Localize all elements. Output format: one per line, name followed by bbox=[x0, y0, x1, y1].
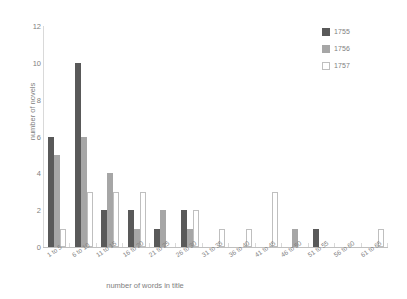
bar-group bbox=[203, 26, 229, 247]
bar-group bbox=[150, 26, 176, 247]
y-tick-label: 0 bbox=[37, 243, 41, 252]
x-tick-label: 41 to 45 bbox=[256, 250, 282, 282]
bar-group bbox=[176, 26, 202, 247]
bar-1757-6-to-10 bbox=[87, 192, 93, 247]
y-tick-label: 12 bbox=[33, 22, 41, 31]
bar-group bbox=[97, 26, 123, 247]
bar-group bbox=[282, 26, 308, 247]
x-tick-label: 11 to 15 bbox=[97, 250, 123, 282]
bar-1757-1-to-5 bbox=[60, 229, 66, 247]
y-tick-label: 4 bbox=[37, 169, 41, 178]
x-axis-ticks: 1 to 56 to 1011 to 1516 to 2021 to 2526 … bbox=[44, 250, 388, 282]
y-tick-label: 8 bbox=[37, 95, 41, 104]
x-tick-label: 6 to 10 bbox=[70, 250, 96, 282]
y-tick-label: 2 bbox=[37, 206, 41, 215]
bar-group bbox=[256, 26, 282, 247]
x-tick-label: 51 to 55 bbox=[309, 250, 335, 282]
x-tick-label: 31 to 35 bbox=[203, 250, 229, 282]
y-axis-ticks: 024681012 bbox=[27, 26, 41, 248]
bar-group bbox=[335, 26, 361, 247]
x-tick-label: 61 to 65 bbox=[362, 250, 388, 282]
y-tick-label: 6 bbox=[37, 132, 41, 141]
x-tick-label: 56 to 60 bbox=[335, 250, 361, 282]
x-tick-label: 26 to 30 bbox=[176, 250, 202, 282]
bar-group bbox=[44, 26, 70, 247]
bar-groups bbox=[44, 26, 388, 247]
x-tick-label: 36 to 40 bbox=[229, 250, 255, 282]
x-axis-title: number of words in title bbox=[0, 281, 290, 290]
bar-group bbox=[362, 26, 388, 247]
bar-group bbox=[70, 26, 96, 247]
x-tick-label: 21 to 25 bbox=[150, 250, 176, 282]
bar-group bbox=[309, 26, 335, 247]
bar-group bbox=[123, 26, 149, 247]
bar-group bbox=[229, 26, 255, 247]
x-tick-label: 1 to 5 bbox=[44, 250, 70, 282]
plot-area: 024681012 bbox=[43, 26, 388, 248]
x-tick-label: 46 to 50 bbox=[282, 250, 308, 282]
x-tick-label: 16 to 20 bbox=[123, 250, 149, 282]
y-tick-label: 10 bbox=[33, 58, 41, 67]
bar-chart: 1755 1756 1757 number of novels 02468101… bbox=[0, 0, 407, 299]
bar-1757-11-to-15 bbox=[113, 192, 119, 247]
